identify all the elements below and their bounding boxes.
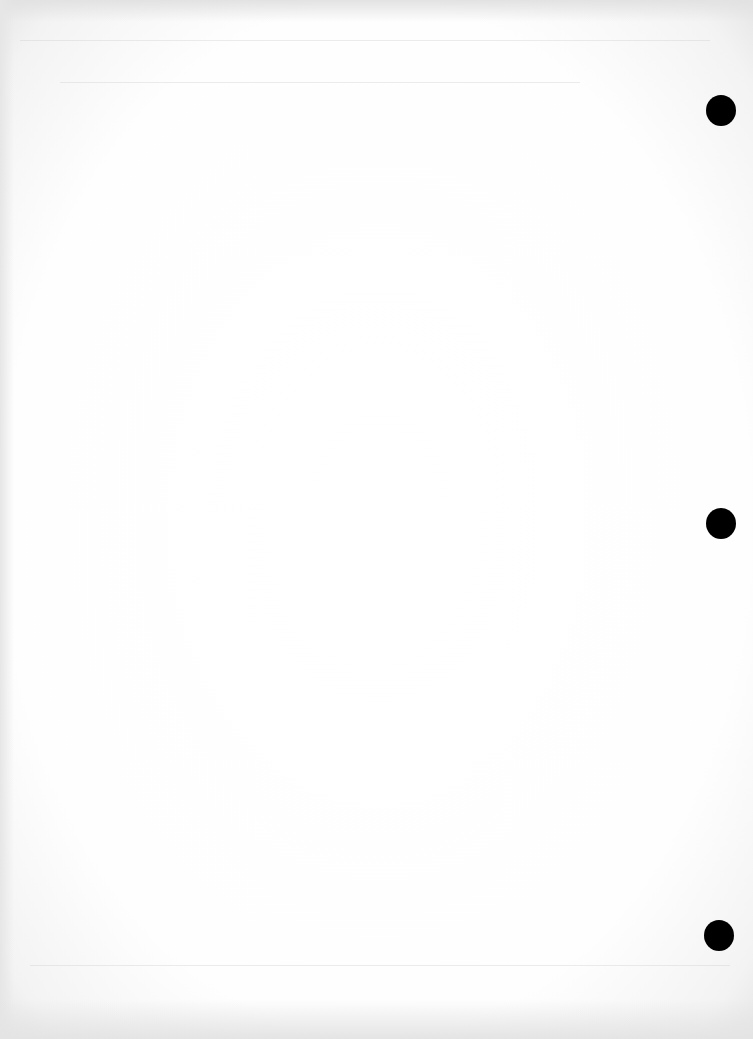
punch-hole-bottom — [704, 920, 734, 951]
scan-edge-left — [0, 0, 14, 1039]
punch-hole-middle — [706, 508, 736, 539]
scan-edge-top — [0, 0, 753, 22]
scanned-page — [0, 0, 753, 1039]
scan-edge-bottom — [0, 999, 753, 1039]
punch-hole-top — [706, 95, 736, 126]
bleed-through-line — [60, 82, 580, 83]
bleed-through-line — [30, 965, 730, 966]
bleed-through-line — [20, 40, 710, 41]
